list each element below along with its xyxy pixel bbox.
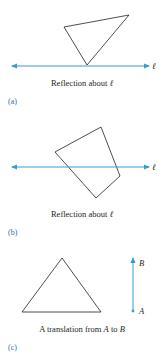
triangle-c bbox=[22, 258, 101, 312]
point-a-label: A bbox=[138, 306, 145, 316]
panel-a: ℓ Reflection about ℓ (a) bbox=[8, 15, 156, 106]
line-label-b: ℓ bbox=[152, 162, 156, 172]
caption-a: Reflection about ℓ bbox=[51, 78, 114, 88]
line-label-a: ℓ bbox=[152, 61, 156, 71]
transformations-figure: ℓ Reflection about ℓ (a) ℓ Reflection ab… bbox=[0, 0, 165, 354]
triangle-a bbox=[64, 15, 129, 65]
point-a-dot bbox=[132, 310, 135, 313]
panel-b: ℓ Reflection about ℓ (b) bbox=[8, 127, 156, 237]
panel-label-b: (b) bbox=[8, 228, 18, 237]
quadrilateral-b bbox=[55, 127, 120, 198]
panel-label-a: (a) bbox=[8, 97, 17, 106]
caption-c: A translation from A to B bbox=[39, 324, 125, 334]
panel-label-c: (c) bbox=[8, 343, 17, 352]
point-b-label: B bbox=[139, 258, 144, 268]
caption-b: Reflection about ℓ bbox=[51, 209, 114, 219]
panel-c: B A A translation from A to B (c) bbox=[8, 258, 145, 352]
